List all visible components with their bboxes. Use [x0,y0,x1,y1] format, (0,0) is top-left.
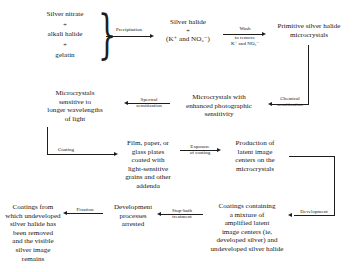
node-primitive-microcrystals: Primitive silver halide microcrystals [268,22,350,39]
edge-arrow-spectral-sensitization [124,101,128,105]
edge-line-fixation [67,213,103,214]
node-silver-nitrate: Silver nitrate [33,10,97,19]
node-fixed-coatings: Coatings from which undeveloped silver h… [4,203,62,263]
edge-arrow-exposure [217,148,221,152]
connector-row3-to-row4-horizontal-bottom [294,215,335,216]
edge-label-wash-top: Wash [223,26,267,32]
node-silver-halide-products: Silver halide + (K⁺ and NO₃⁻) [154,18,222,44]
edge-arrow-chemical-sensitization [268,102,272,106]
edge-label-coating: Coating [50,147,82,153]
edge-label-development: Development [291,209,337,215]
edge-line-stop-bath [161,214,203,215]
node-enhanced-microcrystals: Microcrystals with enhanced photographic… [172,93,266,119]
ingredient-brace: } [98,8,116,60]
edge-label-precipitation: Precipitation [106,27,152,33]
node-plus-1: + [33,21,97,30]
node-plus-2: + [33,41,97,50]
edge-label-wash-bottom: to remove K⁺ and NO₃⁻ [221,35,269,47]
connector-row2-to-row3-horizontal [47,154,115,155]
node-alkali-halide: alkali halide [33,30,97,39]
node-spectral-microcrystals: Microcrystals sensitive to longer wavele… [28,89,122,123]
node-coated-plates: Film, paper, or glass plates coated with… [118,139,178,191]
node-development-arrested: Development processes arrested [107,203,159,229]
edge-line-exposure [180,150,218,151]
connector-row2-to-row3-vertical [47,127,48,154]
connector-row3-to-row4-horizontal-top [289,156,335,157]
node-latent-image: Production of latent image centers on th… [222,139,288,173]
edge-label-chemical-sensitization: Chemical sensitization [266,96,314,108]
edge-arrow-fixation [63,211,67,215]
connector-row3-to-row4-vertical [334,156,335,215]
node-developed-coatings: Coatings containing a mixture of amplifi… [204,202,290,254]
flowchart-diagram: Silver nitrate + alkali halide + gelatin… [0,0,353,272]
edge-line-precipitation [106,36,151,37]
node-gelatin: gelatin [33,51,97,60]
edge-line-spectral-sensitization [128,103,170,104]
